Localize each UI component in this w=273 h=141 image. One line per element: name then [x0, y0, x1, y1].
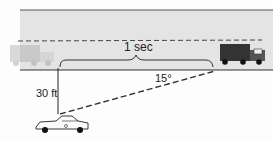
distance-label: 30 ft	[36, 87, 57, 99]
sight-line	[60, 71, 215, 114]
police-car-icon	[36, 116, 88, 133]
diagram-canvas: 1 sec 15° 30 ft	[0, 0, 273, 141]
angle-label: 15°	[155, 72, 172, 84]
time-label: 1 sec	[124, 40, 153, 54]
diagram-graphics	[0, 0, 273, 141]
